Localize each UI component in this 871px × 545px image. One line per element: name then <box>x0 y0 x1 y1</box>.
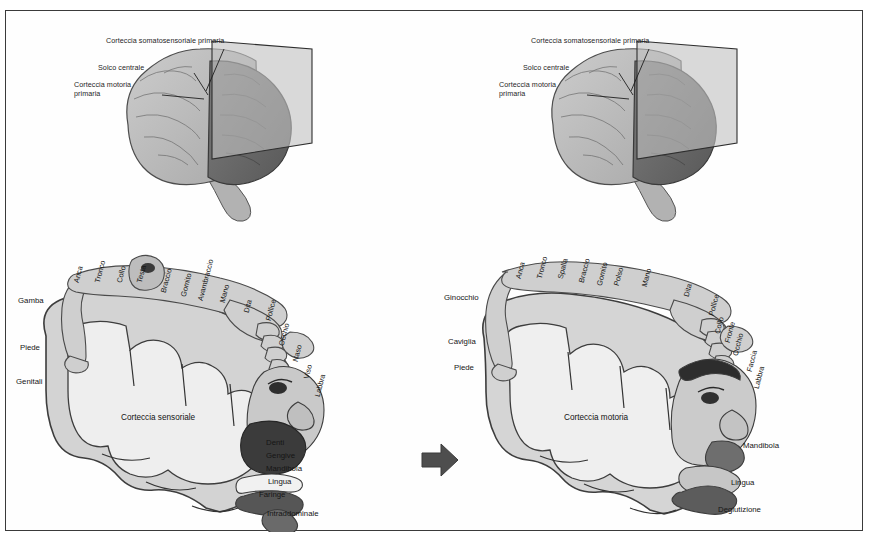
motor-cortex-illustration <box>436 216 864 532</box>
label-ginocchio: Ginocchio <box>444 293 479 302</box>
label-somatosensory-cortex-right: Corteccia somatosensoriale primaria <box>531 37 649 46</box>
label-gengive: Gengive <box>266 451 295 460</box>
label-caviglia: Caviglia <box>448 337 476 346</box>
label-lingua: Lingua <box>268 477 291 486</box>
label-sensory-cortex-area: Corteccia sensoriale <box>121 413 195 422</box>
label-faringe: Faringe <box>259 490 285 499</box>
homunculus-motor: Anca Tronco Spalla Braccio Gomito Polso … <box>436 216 866 532</box>
panel-motor: Corteccia somatosensoriale primaria Solc… <box>436 11 864 530</box>
label-central-sulcus-right: Solco centrale <box>523 64 569 73</box>
label-lingua-motor: Lingua <box>731 478 754 487</box>
label-central-sulcus: Solco centrale <box>98 64 144 73</box>
label-piede: Piede <box>20 343 40 352</box>
sensory-cortex-illustration <box>6 216 436 532</box>
brain-diagram-motor: Corteccia somatosensoriale primaria Solc… <box>491 19 791 224</box>
figure-border: Corteccia somatosensoriale primaria Solc… <box>5 10 863 531</box>
label-motor-cortex-right: Corteccia motoria primaria <box>499 81 565 98</box>
brain-illustration <box>66 19 366 224</box>
label-mandibola: Mandibola <box>266 464 302 473</box>
label-motor-cortex: Corteccia motoria primaria <box>74 81 140 98</box>
label-genitali: Genitali <box>16 377 42 386</box>
figure-root: Corteccia somatosensoriale primaria Solc… <box>0 0 871 545</box>
homunculus-sensory: Anca Tronco Collo Testa Braccio Gomito A… <box>6 216 436 532</box>
label-somatosensory-cortex: Corteccia somatosensoriale primaria <box>106 37 224 46</box>
brain-illustration-motor <box>491 19 791 224</box>
label-motor-cortex-area: Corteccia motoria <box>564 413 628 422</box>
label-deglutizione: Deglutizione <box>718 505 761 514</box>
brain-diagram-sensory: Corteccia somatosensoriale primaria Solc… <box>66 19 366 224</box>
label-gamba: Gamba <box>18 296 44 305</box>
label-piede-motor: Piede <box>454 363 474 372</box>
label-intraddominale: Intraddominale <box>267 509 319 518</box>
panel-sensory: Corteccia somatosensoriale primaria Solc… <box>6 11 436 530</box>
label-denti: Denti <box>266 438 284 447</box>
label-mandibola-motor: Mandibola <box>743 441 779 450</box>
